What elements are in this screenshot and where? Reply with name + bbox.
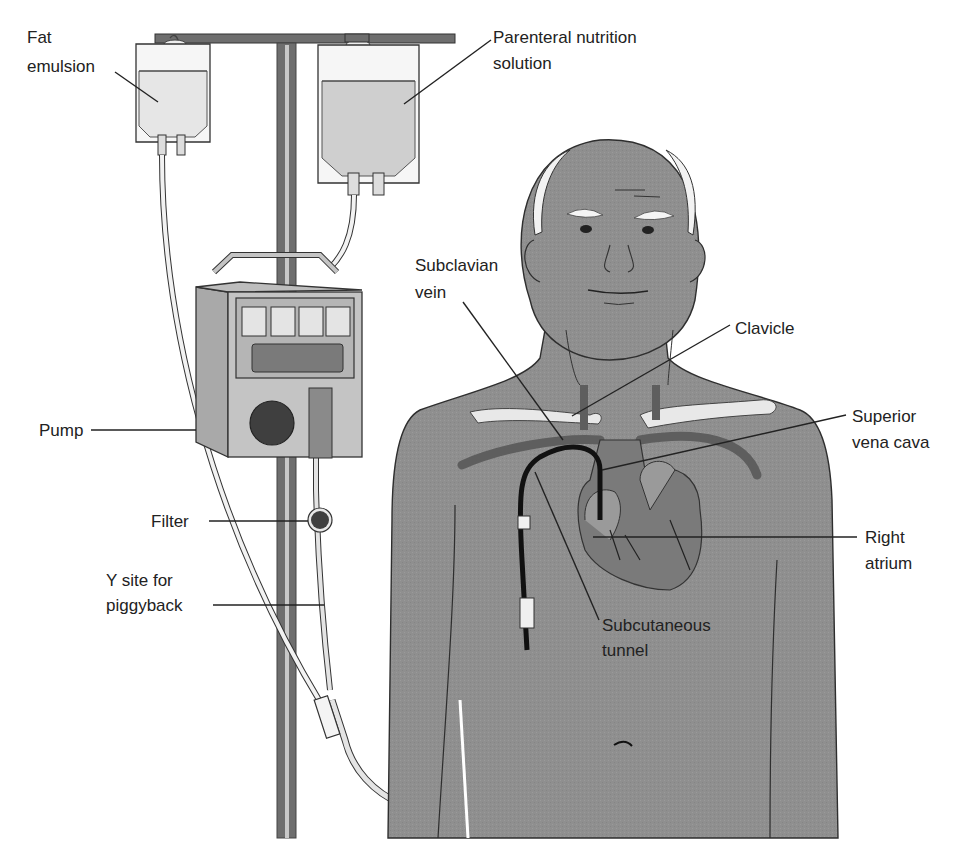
label-filter: Filter bbox=[151, 512, 189, 531]
label-superior-vena-cava: Superior vena cava bbox=[852, 407, 930, 452]
label-pump: Pump bbox=[39, 421, 83, 440]
label-right-atrium: Right atrium bbox=[865, 528, 912, 573]
label-y-site-for-piggyback: Y site for piggyback bbox=[106, 571, 183, 615]
label-clavicle: Clavicle bbox=[735, 319, 795, 338]
label-fat-emulsion: Fat emulsion bbox=[27, 28, 95, 76]
label-parenteral-nutrition-solution: Parenteral nutrition solution bbox=[493, 28, 641, 73]
label-subclavian-vein: Subclavian vein bbox=[415, 256, 503, 302]
inline-filter bbox=[308, 508, 332, 532]
patient bbox=[388, 140, 838, 838]
parenteral-nutrition-bag bbox=[318, 34, 419, 195]
infusion-pump bbox=[196, 255, 362, 458]
pn-setup-diagram: Fat emulsion Parenteral nutrition soluti… bbox=[0, 0, 967, 860]
